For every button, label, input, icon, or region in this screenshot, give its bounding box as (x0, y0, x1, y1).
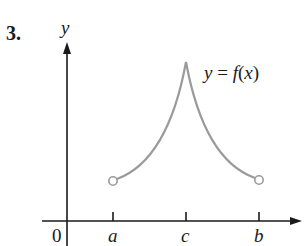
open-circle-right (255, 176, 263, 184)
open-circle-left (109, 177, 117, 185)
graph: 3. y 0 a c b y = f(x) (0, 0, 307, 246)
tick-label-a: a (108, 225, 118, 246)
problem-number: 3. (6, 22, 21, 44)
tick-label-c: c (181, 225, 190, 246)
y-axis-arrow-icon (63, 42, 71, 54)
x-axis-arrow-icon (290, 217, 302, 225)
tick-label-b: b (254, 225, 264, 246)
origin-label: 0 (52, 225, 62, 246)
y-axis-label: y (59, 17, 70, 38)
curve-label: y = f(x) (202, 62, 259, 84)
